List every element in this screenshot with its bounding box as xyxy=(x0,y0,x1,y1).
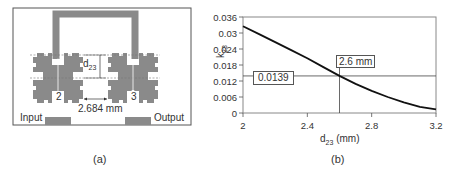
y-tick-label: 0.03 xyxy=(219,28,238,39)
y-tick-label: 0.012 xyxy=(213,76,237,87)
d-value-annotation: 2.6 mm xyxy=(336,55,375,68)
x-tick-label: 3.2 xyxy=(429,120,442,131)
x-tick-label: 2.8 xyxy=(365,120,378,131)
port-2-label: 2 xyxy=(55,92,63,102)
panel-a-caption: (a) xyxy=(93,153,106,165)
output-label: Output xyxy=(154,112,184,123)
coupling-coefficient-chart: 00.0060.0120.0180.0240.030.03622.42.83.2 xyxy=(200,0,450,172)
input-label: Input xyxy=(20,112,42,123)
y-tick-label: 0.036 xyxy=(213,12,237,23)
panel-b-caption: (b) xyxy=(331,153,344,165)
k-value-annotation: 0.0139 xyxy=(253,71,294,85)
coupling-chart-panel: 00.0060.0120.0180.0240.030.03622.42.83.2… xyxy=(200,0,450,172)
spacing-label: 2.684 mm xyxy=(78,103,122,114)
x-tick-label: 2.4 xyxy=(301,120,314,131)
y-tick-label: 0.006 xyxy=(213,92,237,103)
port-3-label: 3 xyxy=(130,92,138,102)
x-tick-label: 2 xyxy=(240,120,245,131)
y-tick-label: 0.018 xyxy=(213,60,237,71)
input-feed-line xyxy=(45,117,71,125)
output-feed-line xyxy=(125,117,151,125)
layout-diagram-panel: d23 2 3 2.684 mm Input Output (a) xyxy=(0,0,210,172)
resonator-layout-figure xyxy=(0,0,210,172)
x-axis-label: d23 (mm) xyxy=(320,133,359,146)
y-axis-label: k23 xyxy=(215,45,228,58)
d23-label: d23 xyxy=(83,58,96,71)
y-tick-label: 0 xyxy=(232,108,237,119)
